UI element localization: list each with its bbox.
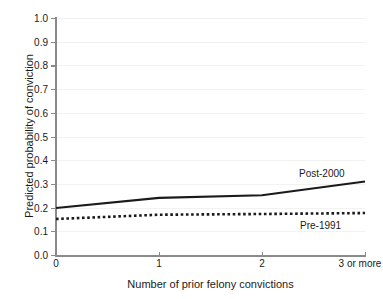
series-layer — [0, 0, 383, 299]
series-label-pre-1991: Pre-1991 — [300, 220, 341, 231]
chart-container: Predicted probability of conviction 1.0 … — [0, 0, 383, 299]
series-line-post-2000 — [56, 182, 365, 209]
series-line-pre-1991 — [56, 213, 365, 219]
series-label-post-2000: Post-2000 — [299, 168, 345, 179]
x-axis-title: Number of prior felony convictions — [56, 278, 365, 290]
